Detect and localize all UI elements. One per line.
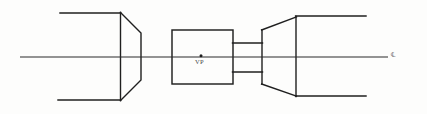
vanishing-point-dot [200,54,203,57]
drawing-canvas: VP ℄ [0,0,427,114]
right-body-flare-top [262,17,297,30]
right-body-flare-bottom [262,84,297,96]
centerline-label: ℄ [391,52,397,59]
vanishing-point-label: VP [195,59,204,66]
technical-drawing [0,0,427,114]
